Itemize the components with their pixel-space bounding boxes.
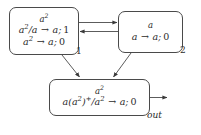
cell-2-alphabet: a — [148, 21, 153, 31]
edge-2-to-out — [114, 53, 132, 77]
cell-1-rule-2: a2 → a; 0 — [23, 37, 65, 48]
diagram-canvas: a2 a2/a → a; 1 a2 → a; 0 a a → a; 0 a2 a… — [0, 0, 201, 135]
edge-1-to-out — [62, 55, 80, 77]
cell-1[interactable]: a2 a2/a → a; 1 a2 → a; 0 — [9, 7, 79, 55]
cell-out-rule-1: a(a2)+/a2 → a; 0 — [63, 97, 137, 108]
cell-out-index-label: out — [147, 110, 162, 120]
cell-2-index-label: 2 — [180, 45, 186, 55]
cell-1-alphabet: a2 — [40, 15, 49, 25]
cell-2-rule-1: a → a; 0 — [132, 32, 170, 43]
cell-1-rule-1: a2/a → a; 1 — [19, 25, 70, 36]
cell-1-index-label: 1 — [76, 46, 82, 56]
cell-out[interactable]: a2 a(a2)+/a2 → a; 0 — [49, 79, 150, 116]
cell-2[interactable]: a a → a; 0 — [118, 11, 183, 53]
